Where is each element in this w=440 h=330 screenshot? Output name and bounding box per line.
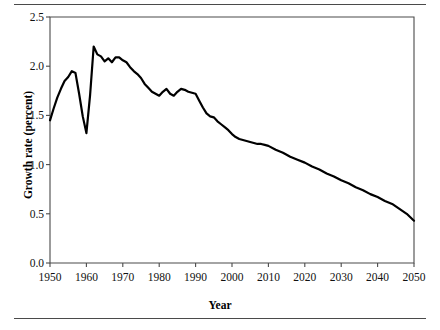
axis-frame [50,17,414,263]
x-axis-title: Year [0,299,440,311]
x-tick-label: 1980 [148,271,171,283]
x-tick-label: 2030 [330,271,353,283]
x-tick-label: 2000 [221,271,244,283]
x-tick-label: 1990 [184,271,207,283]
growth-rate-line [50,47,414,221]
y-axis-title: Growth rate (percent) [22,20,34,270]
chart-figure: 0.00.51.01.52.02.5 195019601970198019902… [0,0,440,330]
x-tick-label: 2040 [366,271,389,283]
x-axis-ticks [50,263,414,267]
x-tick-label: 1960 [75,271,98,283]
data-series-group [50,47,414,221]
x-tick-label: 2020 [293,271,316,283]
x-tick-label: 2050 [403,271,426,283]
x-tick-label: 2010 [257,271,280,283]
x-tick-label: 1950 [39,271,62,283]
y-axis-ticks [46,17,50,263]
x-tick-label: 1970 [111,271,134,283]
